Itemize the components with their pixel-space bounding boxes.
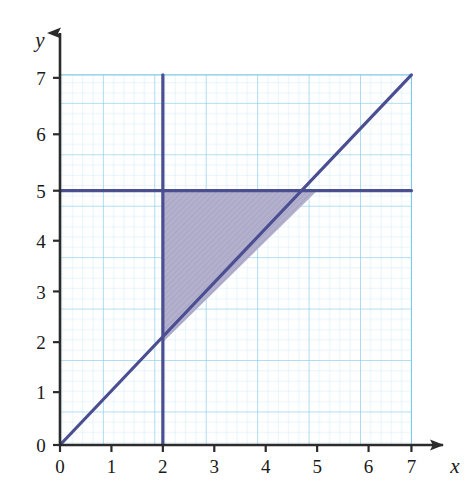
x-tick-label-4: 4 [261,456,271,477]
y-tick-label-0: 0 [36,435,46,456]
x-tick-label-0: 0 [55,456,65,477]
y-axis-tick-labels: 0 1 2 3 4 5 6 7 [36,68,46,456]
y-tick-label-4: 4 [36,231,46,252]
x-tick-label-7: 7 [407,456,417,477]
y-tick-label-6: 6 [36,124,46,145]
x-tick-label-5: 5 [312,456,322,477]
x-tick-label-1: 1 [107,456,117,477]
y-tick-label-2: 2 [36,332,46,353]
y-tick-label-1: 1 [36,382,46,403]
x-tick-label-6: 6 [364,456,374,477]
x-tick-label-3: 3 [210,456,220,477]
y-axis-label: y [33,28,45,52]
graph-figure: 0 1 2 3 4 5 6 7 0 1 2 3 4 5 6 7 y x [0,0,476,492]
coordinate-plane: 0 1 2 3 4 5 6 7 0 1 2 3 4 5 6 7 y x [0,0,476,492]
x-tick-label-2: 2 [158,456,168,477]
x-axis-tick-labels: 0 1 2 3 4 5 6 7 [55,456,416,477]
x-axis-label: x [449,454,460,478]
y-tick-label-5: 5 [36,181,46,202]
y-tick-label-3: 3 [36,282,46,303]
y-tick-label-7: 7 [36,68,46,89]
